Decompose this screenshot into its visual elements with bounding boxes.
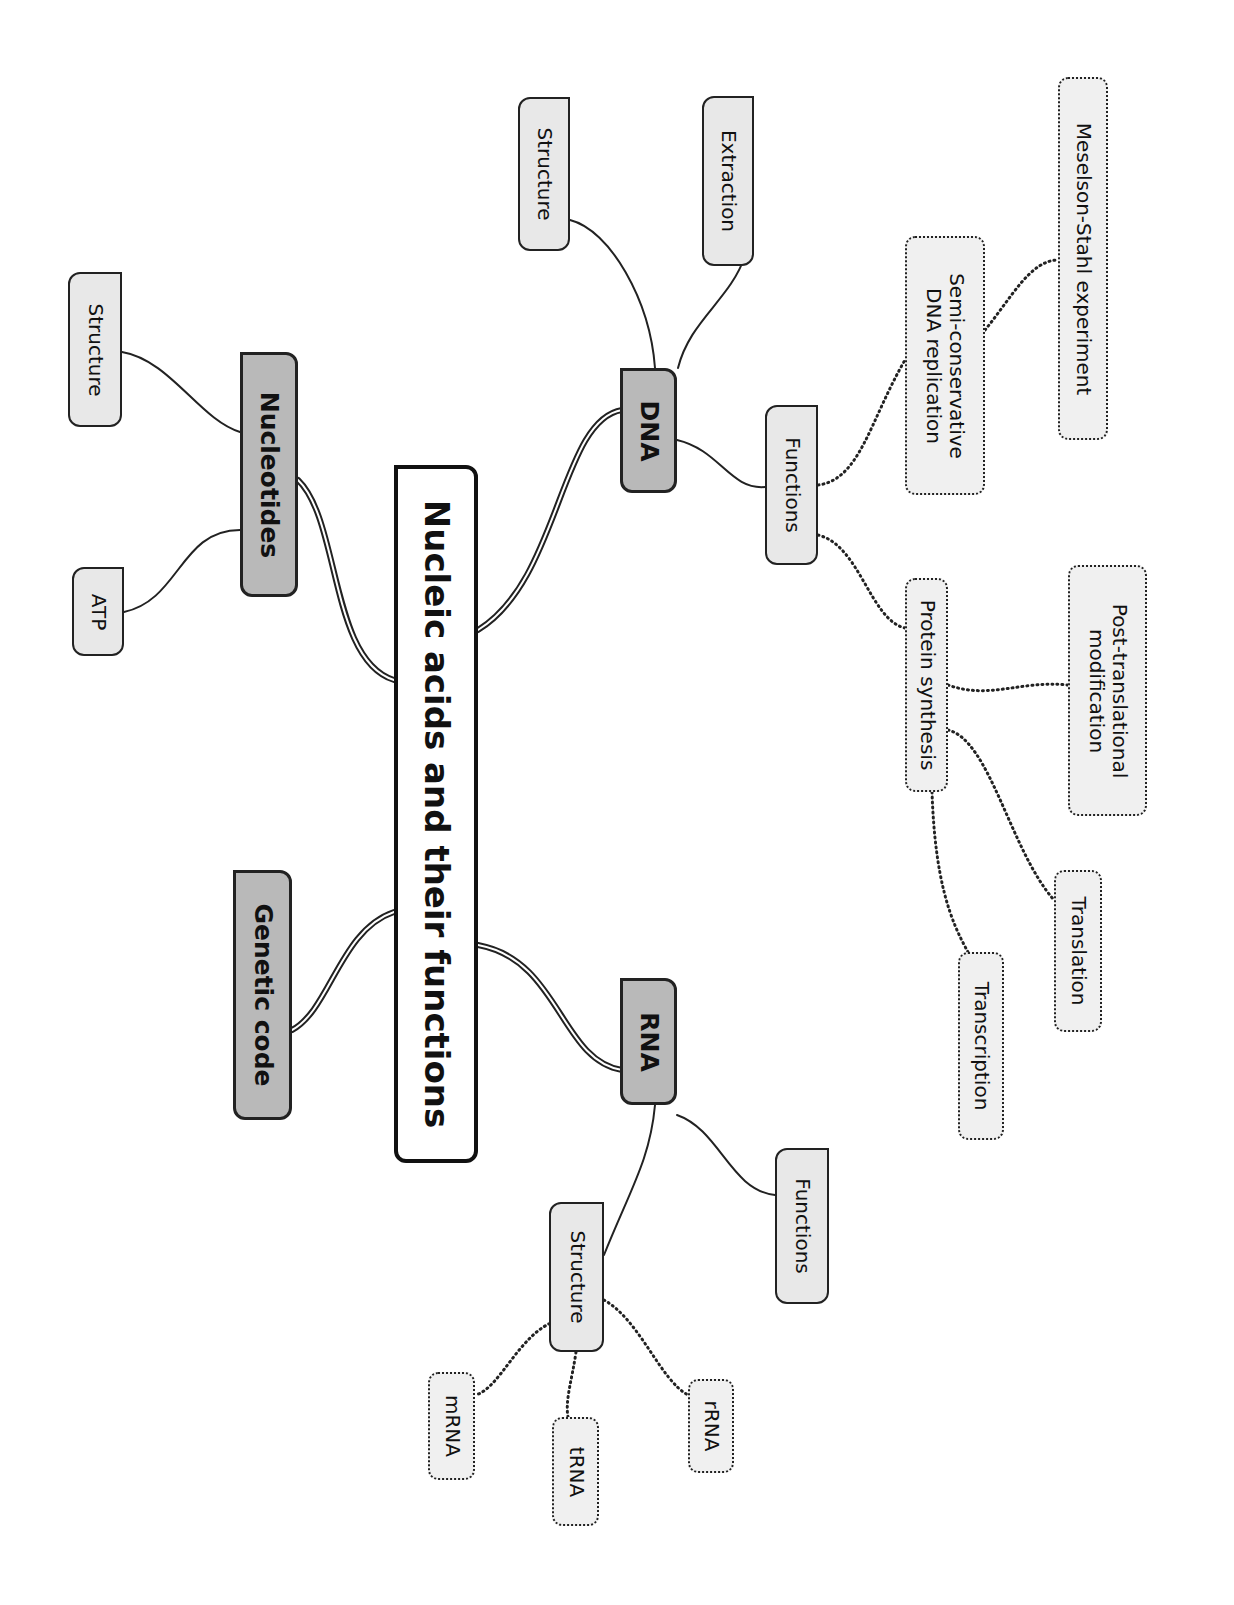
node-genetic-code[interactable]: Genetic code <box>233 870 292 1120</box>
node-dna-structure-label: Structure <box>533 127 556 220</box>
root-label: Nucleic acids and their functions <box>416 500 455 1129</box>
node-semi-conservative[interactable]: Semi-conservative DNA replication <box>905 236 985 495</box>
node-rrna-label: rRNA <box>700 1401 723 1452</box>
node-meselson-stahl[interactable]: Meselson-Stahl experiment <box>1058 77 1108 440</box>
node-rna[interactable]: RNA <box>620 978 677 1105</box>
connector-lines <box>0 0 1234 1605</box>
node-dna-extraction[interactable]: Extraction <box>702 96 754 266</box>
node-protein-synthesis[interactable]: Protein synthesis <box>905 578 948 792</box>
node-dna-functions[interactable]: Functions <box>765 405 818 565</box>
node-transcription[interactable]: Transcription <box>958 952 1004 1140</box>
node-dna-label: DNA <box>634 400 663 461</box>
node-nucleotides-structure[interactable]: Structure <box>68 272 122 427</box>
node-rna-functions[interactable]: Functions <box>775 1148 829 1304</box>
node-translation-label: Translation <box>1067 897 1090 1006</box>
node-dna-structure[interactable]: Structure <box>518 97 570 251</box>
node-rna-label: RNA <box>634 1012 663 1072</box>
node-nucleotides[interactable]: Nucleotides <box>240 352 298 597</box>
node-rna-structure[interactable]: Structure <box>549 1202 604 1352</box>
node-rrna[interactable]: rRNA <box>688 1379 734 1473</box>
node-transcription-label: Transcription <box>970 982 993 1111</box>
node-genetic-code-label: Genetic code <box>248 903 277 1086</box>
node-atp[interactable]: ATP <box>72 567 124 656</box>
node-post-translational[interactable]: Post-translational modification <box>1068 565 1147 816</box>
node-protein-synthesis-label: Protein synthesis <box>915 600 938 771</box>
node-rna-functions-label: Functions <box>791 1178 814 1274</box>
node-trna-label: tRNA <box>564 1446 587 1496</box>
node-atp-label: ATP <box>87 593 110 629</box>
node-semi-conservative-label: Semi-conservative DNA replication <box>922 273 968 459</box>
node-rna-structure-label: Structure <box>565 1230 588 1323</box>
node-translation[interactable]: Translation <box>1054 870 1102 1032</box>
node-nucleotides-label: Nucleotides <box>255 391 284 558</box>
node-trna[interactable]: tRNA <box>552 1417 599 1526</box>
node-meselson-stahl-label: Meselson-Stahl experiment <box>1072 122 1095 395</box>
node-dna[interactable]: DNA <box>620 368 677 493</box>
node-dna-functions-label: Functions <box>780 437 803 533</box>
node-post-translational-label: Post-translational modification <box>1085 603 1131 777</box>
node-dna-extraction-label: Extraction <box>717 130 740 232</box>
node-mrna[interactable]: mRNA <box>428 1372 475 1480</box>
node-mrna-label: mRNA <box>440 1395 463 1457</box>
node-nucleotides-structure-label: Structure <box>84 303 107 396</box>
root-node[interactable]: Nucleic acids and their functions <box>394 465 478 1163</box>
